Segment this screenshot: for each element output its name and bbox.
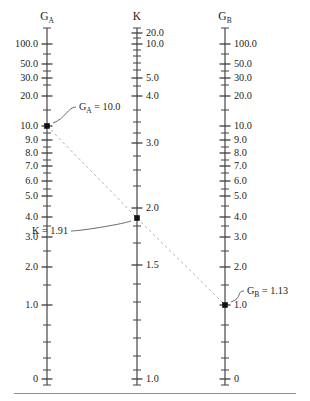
reading-k-label: K = 1.91	[32, 225, 68, 236]
scale-ga-tick-label: 30.0	[20, 72, 38, 83]
reading-gb-label: GB = 1.13	[247, 285, 288, 299]
readings-layer: GA = 10.0K = 1.91GB = 1.13	[32, 101, 288, 307]
scale-ga-tick-label: 50.0	[20, 58, 38, 69]
scale-gb-tick-label: 5.0	[234, 190, 247, 201]
scale-k-tick-label: 20.0	[146, 27, 164, 38]
nomogram-canvas: 100.050.030.020.010.09.08.07.06.05.04.03…	[0, 0, 310, 401]
scale-ga-tick-label: 10.0	[20, 120, 38, 131]
scale-gb-tick-label: 10.0	[234, 120, 252, 131]
scale-ga-tick-label: 1.0	[25, 299, 38, 310]
nomogram-figure: 100.050.030.020.010.09.08.07.06.05.04.03…	[0, 0, 310, 401]
scale-k: 20.010.05.04.03.02.01.51.0K	[132, 10, 164, 385]
scale-gb-tick-label: 1.0	[234, 299, 247, 310]
reading-ga-label: GA = 10.0	[79, 101, 120, 115]
reading-gb-marker	[222, 302, 227, 307]
reading-k-leader-line	[71, 221, 131, 231]
scale-gb-tick-label: 20.0	[234, 90, 252, 101]
scale-ga-tick-label: 2.0	[25, 261, 38, 272]
scale-ga-tick-label: 4.0	[25, 211, 38, 222]
scale-k-tick-label: 3.0	[146, 137, 159, 148]
scale-k-tick-label: 1.0	[146, 373, 159, 384]
scale-gb-tick-label: 7.0	[234, 160, 247, 171]
scale-ga-tick-label: 20.0	[20, 90, 38, 101]
scale-gb-tick-label: 0	[234, 373, 239, 384]
scale-gb: 100.050.030.020.010.09.08.07.06.05.04.03…	[218, 10, 257, 385]
scale-gb-tick-label: 6.0	[234, 175, 247, 186]
scale-ga-tick-label: 9.0	[25, 134, 38, 145]
scale-gb-tick-label: 3.0	[234, 231, 247, 242]
scale-ga-tick-label: 8.0	[25, 147, 38, 158]
reading-gb: GB = 1.13	[222, 285, 288, 307]
scale-k-tick-label: 5.0	[146, 72, 159, 83]
scale-k-title: K	[133, 10, 142, 22]
scale-ga-tick-label: 5.0	[25, 190, 38, 201]
scale-gb-tick-label: 2.0	[234, 261, 247, 272]
scale-gb-tick-label: 9.0	[234, 134, 247, 145]
scale-gb-tick-label: 100.0	[234, 38, 257, 49]
reading-ga: GA = 10.0	[44, 101, 120, 128]
scale-ga-tick-label: 6.0	[25, 175, 38, 186]
scale-ga: 100.050.030.020.010.09.08.07.06.05.04.03…	[15, 10, 54, 385]
scale-gb-tick-label: 4.0	[234, 211, 247, 222]
scale-k-tick-label: 1.5	[146, 259, 159, 270]
scale-ga-tick-label: 100.0	[15, 38, 38, 49]
reading-ga-leader-line	[53, 107, 76, 123]
reading-ga-marker	[44, 123, 49, 128]
scale-gb-tick-label: 30.0	[234, 72, 252, 83]
scale-gb-tick-label: 8.0	[234, 147, 247, 158]
scale-k-tick-label: 2.0	[146, 202, 159, 213]
scale-gb-tick-label: 50.0	[234, 58, 252, 69]
scales-layer: 100.050.030.020.010.09.08.07.06.05.04.03…	[15, 10, 257, 385]
reading-k-marker	[134, 215, 139, 220]
scale-gb-title: GB	[218, 10, 231, 25]
reading-k: K = 1.91	[32, 215, 140, 236]
scale-k-tick-label: 10.0	[146, 38, 164, 49]
scale-ga-title: GA	[40, 10, 54, 25]
scale-ga-tick-label: 0	[33, 373, 38, 384]
scale-ga-tick-label: 7.0	[25, 160, 38, 171]
scale-k-tick-label: 4.0	[146, 90, 159, 101]
